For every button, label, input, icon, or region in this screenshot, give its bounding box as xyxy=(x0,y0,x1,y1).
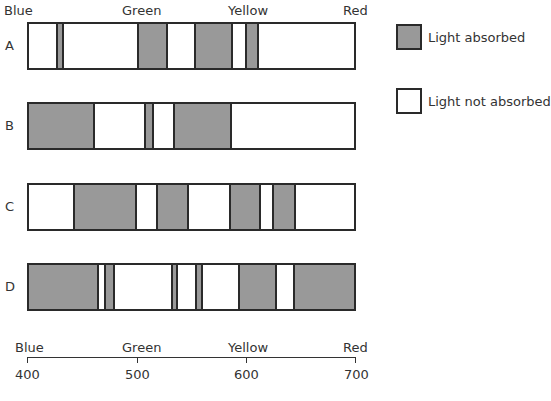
absorption-band xyxy=(104,265,115,309)
absorption-band xyxy=(73,185,137,229)
axis-tick-700 xyxy=(355,357,356,363)
spectrum-bar-b xyxy=(27,102,356,150)
absorption-band xyxy=(29,265,99,309)
absorption-band xyxy=(171,265,178,309)
absorption-band xyxy=(29,104,95,148)
axis-color-green: Green xyxy=(122,340,161,355)
axis-tick-label-500: 500 xyxy=(125,367,150,382)
row-label-d: D xyxy=(5,279,15,294)
axis-color-blue: Blue xyxy=(15,340,44,355)
axis-tick-400 xyxy=(27,357,28,363)
row-label-c: C xyxy=(5,199,14,214)
absorption-band xyxy=(156,185,189,229)
spectrum-bar-c xyxy=(27,183,356,231)
axis-tick-label-700: 700 xyxy=(344,367,369,382)
top-label-red: Red xyxy=(343,3,368,18)
spectrum-bar-a xyxy=(27,22,356,70)
legend-not-absorbed-label: Light not absorbed xyxy=(428,94,551,109)
absorption-band xyxy=(194,24,233,68)
absorption-band xyxy=(238,265,277,309)
wavelength-axis-line xyxy=(27,357,356,358)
spectrum-bar-d xyxy=(27,263,356,311)
axis-tick-600 xyxy=(246,357,247,363)
legend-not-absorbed-swatch xyxy=(396,88,422,114)
top-label-blue: Blue xyxy=(4,3,33,18)
row-label-b: B xyxy=(5,118,14,133)
axis-tick-500 xyxy=(137,357,138,363)
axis-tick-label-400: 400 xyxy=(15,367,40,382)
absorption-band xyxy=(293,265,354,309)
absorption-band xyxy=(245,24,259,68)
absorption-band xyxy=(272,185,296,229)
legend-absorbed-swatch xyxy=(396,24,422,50)
absorption-band xyxy=(137,24,168,68)
row-label-a: A xyxy=(5,38,14,53)
absorption-band xyxy=(229,185,261,229)
top-label-green: Green xyxy=(122,3,161,18)
axis-color-red: Red xyxy=(343,340,368,355)
legend-absorbed-label: Light absorbed xyxy=(428,30,525,45)
absorption-band xyxy=(195,265,203,309)
absorption-band xyxy=(173,104,232,148)
axis-tick-label-600: 600 xyxy=(234,367,259,382)
axis-color-yellow: Yellow xyxy=(228,340,268,355)
absorption-band xyxy=(144,104,154,148)
absorption-band xyxy=(56,24,64,68)
top-label-yellow: Yellow xyxy=(228,3,268,18)
